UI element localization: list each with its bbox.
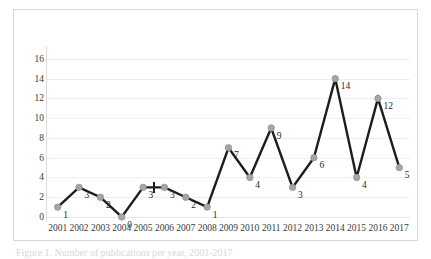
data-point-label: 2 bbox=[191, 200, 196, 210]
x-axis-tick-label: 2014 bbox=[326, 222, 345, 234]
data-point-label: 9 bbox=[277, 131, 282, 141]
data-point-label: 6 bbox=[319, 160, 324, 170]
data-point-label: 5 bbox=[405, 170, 410, 180]
data-point-label: 3 bbox=[298, 190, 303, 200]
x-axis-tick-label: 2003 bbox=[91, 222, 110, 234]
figure-caption: Figure 1. Number of publications per yea… bbox=[16, 247, 416, 259]
x-axis-tick-label: 2006 bbox=[155, 222, 174, 234]
data-point-label: 1 bbox=[213, 210, 218, 220]
y-axis-tick-label: 16 bbox=[18, 54, 44, 64]
x-axis-tick-label: 2013 bbox=[304, 222, 323, 234]
plot-area: 1320332174936144125 bbox=[47, 49, 410, 217]
y-axis-tick-label: 14 bbox=[18, 74, 44, 84]
data-point-label: 1 bbox=[63, 210, 68, 220]
chart-frame: 0246810121416 1320332174936144125 200120… bbox=[13, 9, 418, 241]
x-axis-tick-labels: 2001200220032004200520062007200820092010… bbox=[47, 222, 410, 236]
x-axis-tick-label: 2008 bbox=[198, 222, 217, 234]
x-axis-tick-label: 2001 bbox=[48, 222, 67, 234]
crosshair-cursor-icon bbox=[148, 182, 159, 193]
data-point-label: 4 bbox=[362, 180, 367, 190]
x-axis-tick-label: 2010 bbox=[240, 222, 259, 234]
y-axis-tick-label: 10 bbox=[18, 113, 44, 123]
y-axis-tick-label: 4 bbox=[18, 172, 44, 182]
x-axis-tick-label: 2012 bbox=[283, 222, 302, 234]
x-axis-tick-label: 2011 bbox=[262, 222, 281, 234]
data-point-label: 7 bbox=[234, 150, 239, 160]
x-axis-tick-label: 2017 bbox=[390, 222, 409, 234]
y-axis-tick-label: 8 bbox=[18, 133, 44, 143]
gridline bbox=[47, 217, 410, 218]
figure-container: 0246810121416 1320332174936144125 200120… bbox=[0, 0, 431, 259]
y-axis-tick-label: 6 bbox=[18, 153, 44, 163]
x-axis-tick-label: 2004 bbox=[112, 222, 131, 234]
y-axis-tick-labels: 0246810121416 bbox=[14, 49, 44, 217]
x-axis-tick-label: 2009 bbox=[219, 222, 238, 234]
data-point-labels: 1320332174936144125 bbox=[47, 49, 410, 217]
data-point-label: 3 bbox=[85, 190, 90, 200]
data-point-label: 2 bbox=[106, 200, 111, 210]
data-point-label: 12 bbox=[383, 101, 393, 111]
x-axis-tick-label: 2002 bbox=[70, 222, 89, 234]
data-point-label: 4 bbox=[255, 180, 260, 190]
data-point-label: 3 bbox=[170, 190, 175, 200]
x-axis-tick-label: 2016 bbox=[368, 222, 387, 234]
x-axis-tick-label: 2005 bbox=[134, 222, 153, 234]
y-axis-tick-label: 2 bbox=[18, 192, 44, 202]
y-axis-tick-label: 12 bbox=[18, 93, 44, 103]
data-point-label: 14 bbox=[341, 81, 351, 91]
x-axis-tick-label: 2007 bbox=[176, 222, 195, 234]
y-axis-tick-label: 0 bbox=[18, 212, 44, 222]
x-axis-tick-label: 2015 bbox=[347, 222, 366, 234]
